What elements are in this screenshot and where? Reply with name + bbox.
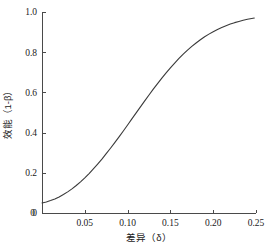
y-axis-title: 效能（1-β）	[2, 86, 13, 140]
y-tick-label: 0.2	[25, 168, 37, 178]
x-tick-label: 0.10	[119, 218, 136, 228]
y-tick-label: 0.4	[25, 128, 37, 138]
y-tick-label: 0.6	[25, 88, 37, 98]
x-tick-label: 0.15	[162, 218, 179, 228]
chart-canvas: 00.20.40.60.81.0 00.050.100.150.200.25 差…	[0, 0, 271, 246]
data-series	[42, 18, 254, 203]
tick-marks	[42, 13, 257, 214]
x-tick-label: 0.05	[76, 218, 93, 228]
y-tick-label: 1.0	[25, 7, 37, 17]
x-tick-label: 0.20	[205, 218, 222, 228]
x-tick-label-origin: 0	[30, 208, 35, 218]
y-tick-labels: 00.20.40.60.81.0	[25, 7, 37, 218]
x-tick-labels: 00.050.100.150.200.25	[30, 208, 264, 228]
axes	[42, 12, 256, 213]
power-curve-figure: 00.20.40.60.81.0 00.050.100.150.200.25 差…	[0, 0, 271, 246]
y-tick-label: 0.8	[25, 48, 37, 58]
power-curve-line	[42, 18, 254, 203]
x-axis-title: 差异（δ）	[126, 232, 171, 243]
x-tick-label: 0.25	[248, 218, 265, 228]
